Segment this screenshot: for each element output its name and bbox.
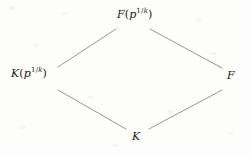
lattice-node-right-F: F	[227, 70, 235, 81]
lattice-node-top-F-p-1-over-k: F(p1/k)	[117, 9, 152, 20]
node-top-close-paren: )	[148, 8, 152, 21]
edge-bottom-to-right	[149, 90, 222, 129]
edge-top-to-right	[150, 29, 222, 68]
node-right-base: F	[227, 69, 235, 82]
lattice-node-bottom-K: K	[132, 131, 140, 142]
node-top-base: F	[117, 8, 125, 21]
lattice-node-left-K-p-1-over-k: K(p1/k)	[11, 68, 47, 79]
node-left-exponent: 1/k	[31, 66, 43, 74]
edge-left-to-bottom	[58, 90, 126, 129]
node-bottom-base: K	[132, 130, 140, 143]
edge-left-to-top	[58, 29, 116, 67]
node-left-close-paren: )	[43, 67, 47, 80]
field-extension-lattice-diagram: F(p1/k) K(p1/k) F K	[0, 0, 251, 156]
node-top-exponent: 1/k	[136, 7, 148, 15]
node-left-inner-base: p	[24, 67, 31, 80]
